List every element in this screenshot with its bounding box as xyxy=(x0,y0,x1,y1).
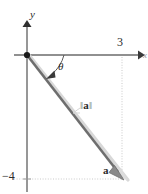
origin-point xyxy=(24,52,30,58)
diagram-canvas xyxy=(0,0,148,194)
vector-a-label: a xyxy=(103,165,109,176)
norm-bar-right: ‖ xyxy=(89,99,92,111)
x-tick-label-3: 3 xyxy=(117,36,123,48)
angle-theta-label: θ xyxy=(58,61,63,72)
vector-diagram: y x 3 −4 θ ‖a‖ a xyxy=(0,0,148,194)
angle-arc-arrowhead xyxy=(46,71,56,80)
y-axis-label: y xyxy=(30,9,35,20)
vector-magnitude-label: ‖a‖ xyxy=(80,100,92,111)
y-axis-arrowhead xyxy=(23,20,32,27)
x-axis-label: x xyxy=(143,51,147,60)
vector-outline xyxy=(29,55,128,180)
y-tick-label-minus-4: −4 xyxy=(2,170,15,182)
